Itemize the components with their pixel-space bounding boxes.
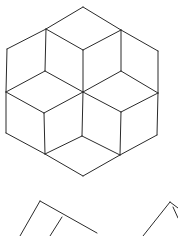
hexagon-edge xyxy=(83,71,121,92)
hexagon-edge xyxy=(6,71,45,92)
rhombus-edge xyxy=(20,201,40,236)
hexagon-edge xyxy=(120,112,121,155)
hexagon-edge xyxy=(83,30,121,50)
hexagon-edge xyxy=(45,154,83,176)
hexagon-edge xyxy=(44,92,83,113)
hexagon-edge xyxy=(44,113,45,154)
rhombus-edge xyxy=(173,207,178,218)
hexagon-edge xyxy=(121,71,158,93)
hexagon-rhombus-star xyxy=(6,7,158,176)
rhombus-edge xyxy=(143,202,170,236)
hexagon-edge xyxy=(7,29,46,49)
left-rhombus-partial xyxy=(20,201,97,236)
hexagon-edge xyxy=(83,7,121,30)
partial-rhombus-figures xyxy=(20,201,178,236)
hexagon-edge xyxy=(6,49,7,92)
rhombus-edge xyxy=(50,217,62,236)
hexagon-edge xyxy=(121,93,158,112)
hexagon-edge xyxy=(121,30,158,51)
hexagon-edge xyxy=(82,92,83,136)
rhombus-edge xyxy=(170,202,178,208)
right-rhombus-partial xyxy=(143,202,178,236)
hexagon-edge xyxy=(46,7,83,29)
hexagon-edge xyxy=(46,29,83,50)
hexagon-edge xyxy=(6,92,44,113)
hexagon-edge xyxy=(157,93,158,135)
hexagon-edge xyxy=(120,135,157,155)
rhombus-edge xyxy=(40,201,97,233)
hexagon-edge xyxy=(83,92,121,112)
rhombus-tiling-diagram xyxy=(0,0,178,236)
hexagon-edge xyxy=(45,136,82,154)
hexagon-edge xyxy=(45,29,46,71)
hexagon-edge xyxy=(82,136,120,155)
hexagon-edge xyxy=(83,155,120,176)
hexagon-edge xyxy=(6,133,45,154)
hexagon-edge xyxy=(45,71,83,92)
diagram-canvas xyxy=(0,0,178,236)
